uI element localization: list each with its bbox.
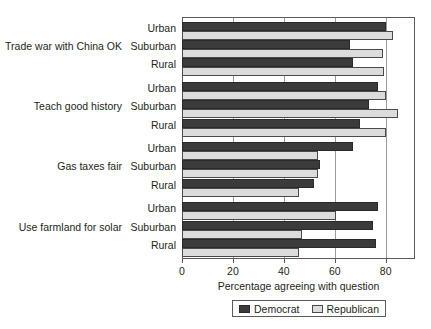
bar-democrat	[182, 100, 369, 109]
category-label-suburban: Suburban	[130, 222, 176, 233]
bar-republican	[182, 188, 299, 197]
x-tick-label: 20	[218, 265, 248, 277]
bar-democrat	[182, 40, 350, 49]
category-label-suburban: Suburban	[130, 161, 176, 172]
legend-item-republican: Republican	[312, 303, 380, 315]
x-tick-mark	[386, 259, 387, 263]
category-label-urban: Urban	[147, 203, 176, 214]
bar-republican	[182, 128, 386, 137]
x-tick-mark	[233, 259, 234, 263]
bar-democrat	[182, 160, 320, 169]
x-tick-mark	[284, 259, 285, 263]
bar-republican	[182, 49, 383, 58]
bar-democrat	[182, 142, 353, 151]
category-label-suburban: Suburban	[130, 41, 176, 52]
chart-legend: Democrat Republican	[232, 300, 386, 317]
legend-label-democrat: Democrat	[254, 303, 300, 315]
x-tick-label: 0	[167, 265, 197, 277]
x-tick-mark	[182, 259, 183, 263]
x-tick-label: 80	[371, 265, 401, 277]
legend-swatch-republican	[312, 305, 323, 313]
bar-democrat	[182, 22, 386, 31]
category-label-rural: Rural	[151, 240, 176, 251]
group-label: Gas taxes fair	[57, 161, 122, 172]
category-label-rural: Rural	[151, 59, 176, 70]
category-label-rural: Rural	[151, 120, 176, 131]
bar-democrat	[182, 221, 373, 230]
bar-republican	[182, 67, 384, 76]
category-label-urban: Urban	[147, 83, 176, 94]
bar-republican	[182, 230, 302, 239]
legend-item-democrat: Democrat	[239, 303, 300, 315]
bar-republican	[182, 211, 336, 220]
category-label-suburban: Suburban	[130, 101, 176, 112]
bar-republican	[182, 109, 398, 118]
group-label: Use farmland for solar	[19, 222, 122, 233]
bar-democrat	[182, 82, 378, 91]
x-tick-label: 60	[320, 265, 350, 277]
x-tick-mark	[335, 259, 336, 263]
legend-label-republican: Republican	[327, 303, 380, 315]
bar-democrat	[182, 202, 378, 211]
bar-democrat	[182, 58, 353, 67]
bar-republican	[182, 31, 393, 40]
x-axis-title: Percentage agreeing with question	[182, 280, 415, 292]
bar-republican	[182, 248, 299, 257]
bar-democrat	[182, 239, 376, 248]
legend-swatch-democrat	[239, 305, 250, 313]
bar-democrat	[182, 179, 314, 188]
category-label-rural: Rural	[151, 180, 176, 191]
group-label: Trade war with China OK	[5, 41, 122, 52]
x-tick-label: 40	[269, 265, 299, 277]
bar-democrat	[182, 119, 360, 128]
category-labels: UrbanSuburbanRuralTrade war with China O…	[0, 17, 180, 259]
bar-republican	[182, 91, 386, 100]
bar-republican	[182, 151, 318, 160]
category-label-urban: Urban	[147, 143, 176, 154]
bar-republican	[182, 169, 318, 178]
group-label: Teach good history	[34, 101, 122, 112]
bars-layer	[182, 17, 415, 259]
category-label-urban: Urban	[147, 23, 176, 34]
bar-chart: UrbanSuburbanRuralTrade war with China O…	[0, 0, 431, 329]
